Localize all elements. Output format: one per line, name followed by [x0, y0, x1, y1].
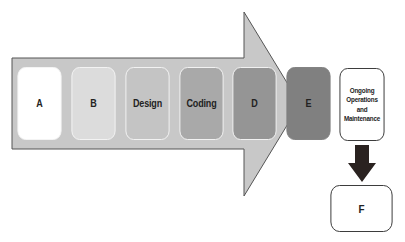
- ongoing-line: and: [344, 105, 380, 115]
- phase-label: D: [251, 98, 257, 109]
- down-arrow-icon: [348, 145, 376, 182]
- phase-label: E: [306, 98, 312, 109]
- phase-label: Design: [133, 98, 162, 109]
- phase-box-coding: Coding: [179, 67, 223, 140]
- phase-label: Coding: [187, 98, 217, 109]
- phase-label: B: [90, 98, 96, 109]
- ongoing-operations-box: Ongoing Operations and Maintenance: [340, 68, 385, 141]
- phase-box-e: E: [286, 67, 330, 140]
- ongoing-line: Ongoing: [344, 86, 380, 96]
- phase-box-d: D: [232, 67, 276, 140]
- final-box-f: F: [330, 185, 392, 232]
- final-label: F: [359, 203, 365, 215]
- phase-box-b: B: [71, 67, 115, 140]
- ongoing-line: Maintenance: [344, 114, 380, 124]
- phase-box-design: Design: [125, 67, 169, 140]
- phase-label: A: [36, 98, 42, 109]
- ongoing-line: Operations: [344, 95, 380, 105]
- phase-box-a: A: [17, 67, 61, 140]
- lifecycle-diagram: A B Design Coding D E Ongoing Operations…: [0, 0, 405, 242]
